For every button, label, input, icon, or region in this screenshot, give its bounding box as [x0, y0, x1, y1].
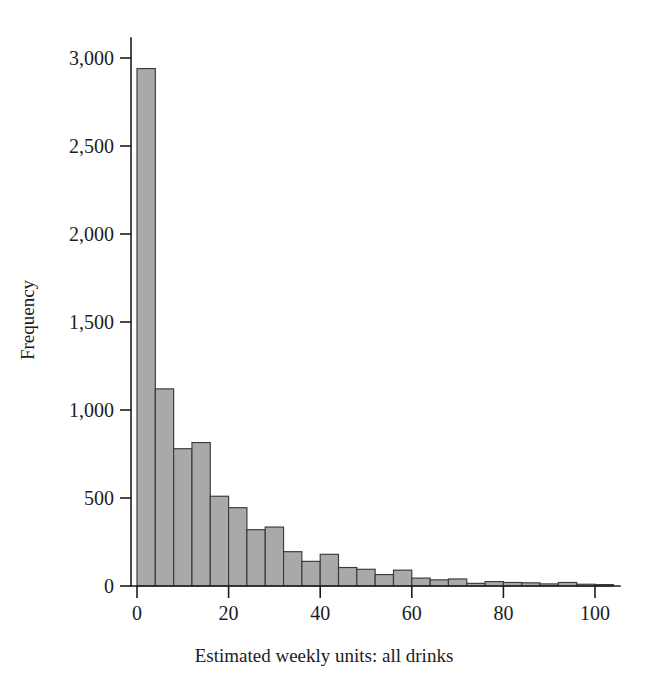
- histogram-bar: [412, 578, 430, 586]
- y-tick-label: 2,500: [69, 135, 114, 157]
- histogram-bar: [448, 579, 466, 586]
- histogram-bar: [430, 580, 448, 586]
- histogram-bar: [375, 575, 393, 586]
- histogram-bar: [302, 561, 320, 586]
- histogram-bar: [265, 527, 283, 586]
- y-axis-title: Frequency: [17, 279, 38, 360]
- histogram-bar: [155, 389, 173, 586]
- histogram-bar: [174, 449, 192, 586]
- histogram-bar: [247, 530, 265, 586]
- x-tick-label: 0: [132, 602, 142, 624]
- y-tick-label: 1,500: [69, 311, 114, 333]
- x-tick-label: 40: [310, 602, 330, 624]
- y-tick-label: 2,000: [69, 223, 114, 245]
- histogram-bar: [339, 568, 357, 586]
- x-tick-label: 60: [402, 602, 422, 624]
- y-tick-label: 500: [84, 487, 114, 509]
- x-tick-label: 80: [493, 602, 513, 624]
- histogram-bar: [137, 69, 155, 586]
- x-tick-label: 20: [219, 602, 239, 624]
- histogram-bar: [192, 443, 210, 586]
- histogram-bar: [320, 554, 338, 586]
- y-tick-label: 3,000: [69, 47, 114, 69]
- histogram-bar: [393, 570, 411, 586]
- histogram-bar: [284, 552, 302, 586]
- y-tick-label: 1,000: [69, 399, 114, 421]
- histogram-bar: [229, 508, 247, 586]
- histogram-chart: 05001,0001,5002,0002,5003,000 0204060801…: [0, 0, 648, 686]
- histogram-bar: [357, 569, 375, 586]
- histogram-figure: 05001,0001,5002,0002,5003,000 0204060801…: [0, 0, 648, 686]
- x-tick-label: 100: [580, 602, 610, 624]
- x-axis-title: Estimated weekly units: all drinks: [195, 645, 454, 666]
- y-tick-label: 0: [104, 575, 114, 597]
- histogram-bar: [210, 496, 228, 586]
